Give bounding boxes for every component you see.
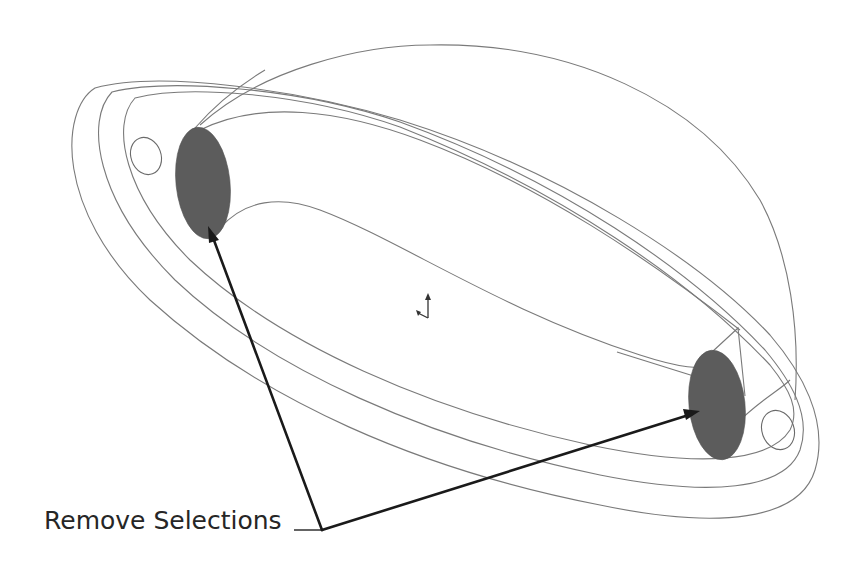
hole-right [756, 406, 800, 455]
annotation-label: Remove Selections [44, 506, 282, 535]
coordinate-triad-icon [416, 293, 431, 318]
cad-viewport[interactable] [0, 0, 867, 584]
selected-face-left[interactable] [170, 124, 235, 241]
selected-face-right[interactable] [683, 347, 750, 462]
annotation-leaders [208, 226, 700, 530]
